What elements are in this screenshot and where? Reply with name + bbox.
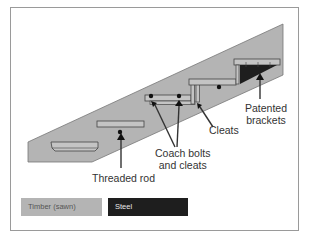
bolt-tread-4 (217, 85, 221, 89)
label-patented-line1: Patented (245, 102, 287, 114)
legend-steel: Steel (108, 198, 188, 216)
tread-1 (51, 142, 98, 151)
threaded-rod-dot (118, 130, 122, 134)
tread-2 (97, 121, 144, 127)
label-coach-bolts: Coach bolts and cleats (155, 147, 210, 171)
label-cleats: Cleats (209, 124, 239, 136)
legend-timber: Timber (sawn) (21, 198, 102, 216)
cleat-bar (150, 101, 195, 105)
cleat-vertical-1 (191, 84, 195, 104)
label-coach-bolts-line2: and cleats (155, 159, 210, 171)
label-threaded-rod: Threaded rod (92, 172, 155, 184)
stair-stringer (28, 24, 283, 162)
label-coach-bolts-line1: Coach bolts (155, 147, 210, 159)
tread-5 (234, 59, 280, 65)
coach-bolt-2 (177, 94, 181, 98)
coach-bolt-1 (149, 94, 153, 98)
cleat-vertical-2 (196, 84, 200, 102)
riser-5 (236, 65, 239, 84)
label-patented-line2: brackets (245, 114, 287, 126)
label-patented-brackets: Patented brackets (245, 102, 287, 126)
tread-4 (189, 79, 236, 85)
